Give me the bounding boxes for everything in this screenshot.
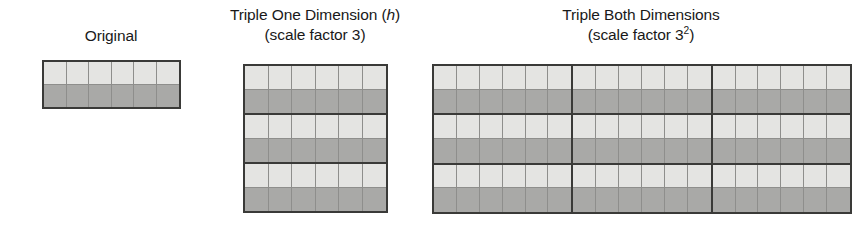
unit-block xyxy=(245,66,386,113)
grid-cell xyxy=(316,164,340,188)
grid-cell xyxy=(89,85,112,108)
caption-both-dim-line1: Triple Both Dimensions xyxy=(491,5,791,25)
grid-cell xyxy=(363,115,387,139)
grid-cell xyxy=(434,66,457,90)
grid-cell xyxy=(434,90,457,114)
grid-cell xyxy=(363,188,387,212)
grid-cell xyxy=(44,62,67,85)
grid-cell xyxy=(642,188,665,212)
grid-cell xyxy=(804,165,827,189)
grid-cell xyxy=(245,66,269,90)
grid-cell xyxy=(827,139,850,163)
grid-cell xyxy=(457,90,480,114)
grid-cell xyxy=(596,188,619,212)
grid-cell xyxy=(619,139,642,163)
unit-block xyxy=(713,115,850,162)
grid-cell xyxy=(827,66,850,90)
caption-original: Original xyxy=(42,26,180,46)
unit-block xyxy=(245,164,386,211)
grid-cell xyxy=(292,188,316,212)
grid-cell xyxy=(827,165,850,189)
grid-cell xyxy=(269,115,293,139)
grid-cell xyxy=(573,66,596,90)
grid-cell xyxy=(339,90,363,114)
grid-cell xyxy=(827,115,850,139)
grid-cell xyxy=(134,85,157,108)
grid-cell xyxy=(736,165,759,189)
grid-cell xyxy=(665,66,688,90)
grid-cell xyxy=(503,139,526,163)
grid-cell xyxy=(269,90,293,114)
grid-cell xyxy=(827,90,850,114)
unit-block xyxy=(573,66,710,113)
assembly-triple-both-dimensions xyxy=(432,64,852,214)
grid-cell xyxy=(573,188,596,212)
grid-cell xyxy=(292,90,316,114)
grid-cell xyxy=(503,165,526,189)
grid-cell xyxy=(758,139,781,163)
grid-cell xyxy=(316,90,340,114)
grid-cell xyxy=(827,188,850,212)
grid-cell xyxy=(434,139,457,163)
figure-triple-one-dimension xyxy=(243,64,388,213)
grid-cell xyxy=(548,115,571,139)
grid-cell xyxy=(804,66,827,90)
unit-block xyxy=(434,165,571,212)
grid-cell xyxy=(548,66,571,90)
grid-cell xyxy=(526,66,549,90)
grid-cell xyxy=(503,188,526,212)
grid-cell xyxy=(245,139,269,163)
grid-cell xyxy=(665,90,688,114)
unit-block xyxy=(44,62,179,107)
grid-cell xyxy=(526,90,549,114)
unit-block xyxy=(245,115,386,162)
grid-cell xyxy=(736,90,759,114)
unit-block xyxy=(434,115,571,162)
grid-cell xyxy=(434,115,457,139)
grid-cell xyxy=(269,66,293,90)
grid-cell xyxy=(804,139,827,163)
grid-cell xyxy=(781,188,804,212)
grid-cell xyxy=(245,90,269,114)
caption-original-line1: Original xyxy=(42,26,180,46)
grid-cell xyxy=(67,62,90,85)
caption-one-dim-variable-h: h xyxy=(387,6,396,23)
caption-both-dim-line2-post: ) xyxy=(689,26,694,43)
grid-cell xyxy=(688,188,711,212)
grid-cell xyxy=(642,139,665,163)
grid-cell xyxy=(316,188,340,212)
grid-cell xyxy=(480,188,503,212)
unit-block xyxy=(434,66,571,113)
grid-cell xyxy=(713,139,736,163)
grid-cell xyxy=(781,139,804,163)
grid-cell xyxy=(457,188,480,212)
grid-cell xyxy=(573,90,596,114)
grid-cell xyxy=(67,85,90,108)
unit-block xyxy=(573,115,710,162)
grid-cell xyxy=(736,66,759,90)
grid-cell xyxy=(316,66,340,90)
grid-cell xyxy=(339,115,363,139)
grid-cell xyxy=(781,66,804,90)
grid-cell xyxy=(316,115,340,139)
grid-cell xyxy=(713,165,736,189)
grid-cell xyxy=(781,165,804,189)
unit-block xyxy=(713,66,850,113)
grid-cell xyxy=(269,164,293,188)
grid-cell xyxy=(245,188,269,212)
grid-cell xyxy=(619,188,642,212)
grid-cell xyxy=(363,90,387,114)
grid-cell xyxy=(736,188,759,212)
grid-cell xyxy=(688,165,711,189)
caption-one-dim-line1-pre: Triple One Dimension ( xyxy=(230,6,387,23)
grid-cell xyxy=(758,165,781,189)
grid-cell xyxy=(363,66,387,90)
grid-cell xyxy=(457,165,480,189)
grid-cell xyxy=(688,115,711,139)
caption-one-dim-line1: Triple One Dimension (h) xyxy=(195,5,435,25)
grid-cell xyxy=(713,115,736,139)
grid-cell xyxy=(758,115,781,139)
grid-cell xyxy=(781,90,804,114)
grid-cell xyxy=(665,188,688,212)
grid-cell xyxy=(269,188,293,212)
